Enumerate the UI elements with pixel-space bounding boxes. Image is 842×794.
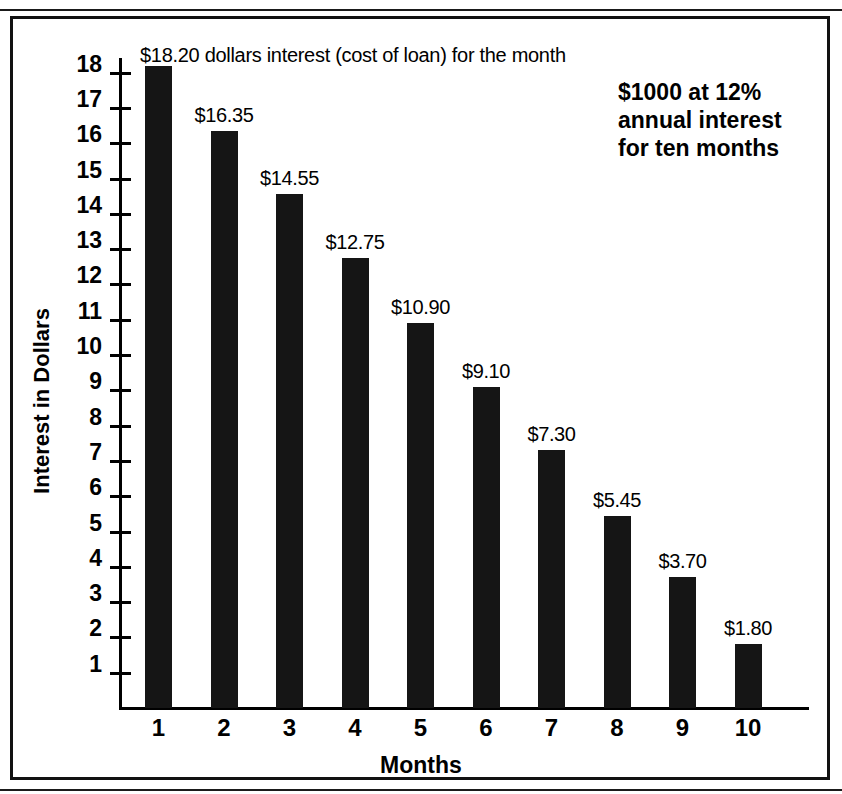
bar[interactable] <box>473 387 500 708</box>
y-axis-tick <box>110 142 131 145</box>
y-axis-tick <box>110 107 131 110</box>
y-axis-tick-label: 10 <box>62 335 102 358</box>
bar-value-label: $5.45 <box>581 490 653 510</box>
x-axis-tick-label: 2 <box>194 716 254 740</box>
y-axis-tick-label: 17 <box>62 88 102 111</box>
x-axis-tick-label: 9 <box>653 716 713 740</box>
y-axis-tick-label: 5 <box>62 512 102 535</box>
bar-value-label: $9.10 <box>450 361 522 381</box>
bar-value-label: $7.30 <box>516 424 588 444</box>
y-axis-tick-label: 6 <box>62 476 102 499</box>
x-axis-tick-label: 7 <box>522 716 582 740</box>
y-axis-tick <box>110 248 131 251</box>
bar-value-label: $14.55 <box>254 168 326 188</box>
y-axis-tick-label: 2 <box>62 617 102 640</box>
bar[interactable] <box>276 194 303 708</box>
y-axis-tick <box>110 636 131 639</box>
bar[interactable] <box>145 66 172 708</box>
bar-value-label: $12.75 <box>319 232 391 252</box>
y-axis-tick <box>110 213 131 216</box>
y-axis-tick <box>110 389 131 392</box>
y-axis-tick-labels: 181716151413121110987654321 <box>56 0 102 794</box>
y-axis-tick-label: 16 <box>62 123 102 146</box>
chart-page: 181716151413121110987654321 $18.20$16.35… <box>0 0 842 794</box>
y-axis-tick <box>110 566 131 569</box>
y-axis-tick <box>110 460 131 463</box>
y-axis-tick-label: 1 <box>62 653 102 676</box>
loan-terms-annotation: $1000 at 12% annual interest for ten mon… <box>618 78 782 162</box>
x-axis-tick-label: 1 <box>129 716 189 740</box>
bar-value-label: $3.70 <box>647 551 719 571</box>
y-axis-tick <box>110 531 131 534</box>
y-axis-tick-label: 18 <box>62 53 102 76</box>
y-axis-tick <box>110 319 131 322</box>
x-axis-tick-label: 4 <box>325 716 385 740</box>
bar-value-label: $1.80 <box>712 618 784 638</box>
y-axis-tick <box>110 283 131 286</box>
y-axis-tick-label: 15 <box>62 159 102 182</box>
bar[interactable] <box>735 644 762 708</box>
bar-value-label: $10.90 <box>385 297 457 317</box>
x-axis-tick-label: 6 <box>456 716 516 740</box>
x-axis-tick-label: 5 <box>391 716 451 740</box>
y-axis-tick <box>110 354 131 357</box>
y-axis-tick-label: 8 <box>62 406 102 429</box>
bar[interactable] <box>407 323 434 708</box>
y-axis-tick-label: 13 <box>62 229 102 252</box>
y-axis-line <box>119 58 122 710</box>
y-axis-title: Interest in Dollars <box>29 271 55 531</box>
x-axis-title: Months <box>0 752 842 779</box>
y-axis-tick <box>110 601 131 604</box>
x-axis-tick-label: 10 <box>718 716 778 740</box>
y-axis-tick <box>110 178 131 181</box>
y-axis-tick <box>110 72 131 75</box>
y-axis-tick-label: 14 <box>62 194 102 217</box>
y-axis-tick <box>110 672 131 675</box>
y-axis-tick-label: 12 <box>62 264 102 287</box>
y-axis-tick-label: 3 <box>62 582 102 605</box>
y-axis-tick-label: 7 <box>62 441 102 464</box>
bar[interactable] <box>538 450 565 708</box>
bar[interactable] <box>342 258 369 708</box>
y-axis-tick <box>110 425 131 428</box>
bar-value-label: $16.35 <box>188 105 260 125</box>
bar[interactable] <box>669 577 696 708</box>
x-axis-tick-label: 3 <box>260 716 320 740</box>
y-axis-tick-label: 11 <box>62 300 102 323</box>
bar[interactable] <box>604 516 631 708</box>
plot-area: 181716151413121110987654321 $18.20$16.35… <box>0 0 842 794</box>
y-axis-tick-label: 4 <box>62 547 102 570</box>
y-axis-tick <box>110 495 131 498</box>
first-bar-description-annotation: $18.20 dollars interest (cost of loan) f… <box>140 44 566 67</box>
bar[interactable] <box>211 131 238 708</box>
x-axis-tick-label: 8 <box>587 716 647 740</box>
y-axis-tick-label: 9 <box>62 370 102 393</box>
